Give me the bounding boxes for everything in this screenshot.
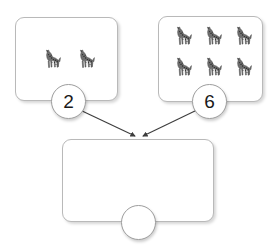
worksheet-canvas: 2 6	[0, 0, 276, 247]
giraffe-icon	[171, 26, 193, 52]
giraffe-icon	[201, 57, 223, 83]
second-addend-count-label: 6	[204, 92, 215, 111]
giraffe-icon	[74, 49, 96, 75]
total-count-circle[interactable]	[121, 205, 156, 240]
first-addend-giraffe-grid	[34, 46, 102, 78]
second-addend-giraffe-grid	[167, 23, 257, 85]
first-addend-count-circle[interactable]: 2	[51, 84, 86, 119]
arrow-left-to-total	[80, 110, 135, 136]
giraffe-icon	[231, 57, 253, 83]
giraffe-icon	[171, 57, 193, 83]
arrow-right-to-total	[143, 110, 197, 136]
first-addend-count-label: 2	[63, 92, 74, 111]
giraffe-icon	[231, 26, 253, 52]
giraffe-icon	[201, 26, 223, 52]
second-addend-count-circle[interactable]: 6	[192, 84, 227, 119]
giraffe-icon	[40, 49, 62, 75]
